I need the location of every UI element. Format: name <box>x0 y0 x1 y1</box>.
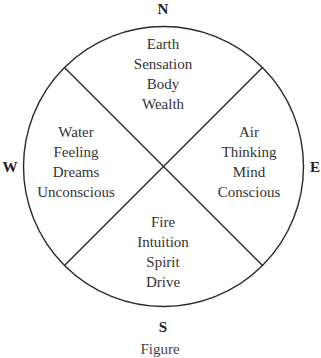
quadrant-south-line-4: Drive <box>137 272 189 292</box>
quadrant-west-line-4: Unconscious <box>37 182 115 202</box>
quadrant-north-line-1: Earth <box>134 34 192 54</box>
quadrant-north-line-2: Sensation <box>134 54 192 74</box>
figure-caption: Figure <box>140 341 179 358</box>
quadrant-east-line-4: Conscious <box>218 182 281 202</box>
direction-north: N <box>158 1 169 18</box>
direction-east: E <box>310 159 320 176</box>
quadrant-west-line-1: Water <box>37 122 115 142</box>
quadrant-north-line-4: Wealth <box>134 94 192 114</box>
quadrant-south-line-2: Intuition <box>137 232 189 252</box>
quadrant-east: Air Thinking Mind Conscious <box>218 122 281 202</box>
direction-south: S <box>159 319 167 336</box>
quadrant-north: Earth Sensation Body Wealth <box>134 34 192 114</box>
quadrant-west-line-2: Feeling <box>37 142 115 162</box>
quadrant-west-line-3: Dreams <box>37 162 115 182</box>
quadrant-west: Water Feeling Dreams Unconscious <box>37 122 115 202</box>
quadrant-north-line-3: Body <box>134 74 192 94</box>
quadrant-east-line-3: Mind <box>218 162 281 182</box>
quadrant-south-line-1: Fire <box>137 212 189 232</box>
quadrant-south-line-3: Spirit <box>137 252 189 272</box>
quadrant-east-line-1: Air <box>218 122 281 142</box>
quadrant-south: Fire Intuition Spirit Drive <box>137 212 189 292</box>
direction-west: W <box>3 159 18 176</box>
quadrant-east-line-2: Thinking <box>218 142 281 162</box>
